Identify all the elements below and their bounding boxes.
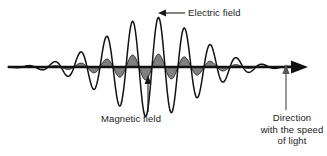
- magnetic-field-label: Magnetic field: [101, 113, 161, 125]
- direction-label-line-3: of light: [258, 135, 326, 147]
- direction-label: Direction with the speed of light: [258, 112, 326, 147]
- direction-label-line-1: Direction: [258, 112, 326, 124]
- direction-label-line-2: with the speed: [258, 124, 326, 136]
- electric-field-pointer: [158, 10, 185, 17]
- arrow-left-icon: [158, 10, 166, 17]
- arrow-up-gray-icon: [282, 64, 289, 74]
- electromagnetic-wave-figure: Electric field Magnetic field Direction …: [0, 0, 327, 156]
- electric-field-label: Electric field: [188, 7, 241, 19]
- direction-pointer: [282, 64, 289, 110]
